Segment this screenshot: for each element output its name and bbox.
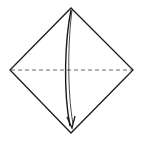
origami-diagram (0, 0, 141, 143)
fold-diagram-svg (0, 0, 141, 143)
